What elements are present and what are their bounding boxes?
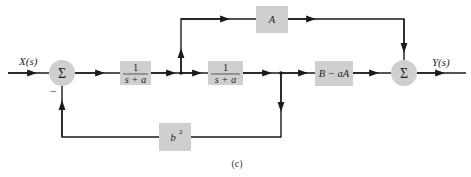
sigma-symbol: Σ [400, 66, 408, 81]
minus-sign: − [50, 84, 57, 98]
output-summing-junction: Σ [391, 60, 417, 86]
first-integrator-block: 1 s + a [120, 61, 151, 85]
figure-caption: (c) [231, 158, 242, 170]
output-label: Y(s) [432, 56, 450, 69]
svg-text:1: 1 [223, 62, 228, 73]
svg-text:B − aA: B − aA [319, 68, 350, 79]
svg-text:2: 2 [179, 128, 183, 136]
sigma-symbol: Σ [58, 66, 66, 81]
input-label: X(s) [18, 55, 38, 68]
output-gain-block: B − aA [315, 61, 353, 86]
svg-text:s + a: s + a [215, 74, 237, 85]
svg-text:1: 1 [133, 62, 138, 73]
svg-text:A: A [268, 14, 276, 25]
input-summing-junction: Σ [49, 60, 75, 86]
svg-text:b: b [170, 132, 175, 143]
block-diagram: X(s) Σ − 1 s + a A 1 s + a [0, 0, 471, 177]
feedback-gain-block: b 2 [159, 123, 191, 151]
feedforward-gain-block: A [256, 6, 288, 33]
svg-text:s + a: s + a [125, 74, 147, 85]
second-integrator-block: 1 s + a [208, 61, 243, 85]
